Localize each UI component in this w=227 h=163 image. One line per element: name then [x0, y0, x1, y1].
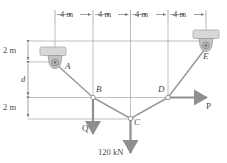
joint-label-A: A [65, 62, 71, 71]
dim-label-top-1: 4 m [98, 10, 111, 19]
dim-label-top-3: 4 m [173, 10, 186, 19]
figure-canvas: 4 m 4 m 4 m 4 m 2 m d 2 m A B C D E Q P … [0, 0, 227, 163]
pulley-axle-A [54, 61, 56, 63]
joint-pin-D [166, 95, 170, 99]
member-A-B [56, 64, 94, 98]
dim-label-top-0: 4 m [60, 10, 73, 19]
member-B-C [93, 98, 131, 119]
construction-verticals [55, 22, 206, 119]
dim-label-left-2: 2 m [3, 103, 16, 112]
dim-label-top-2: 4 m [135, 10, 148, 19]
joint-label-B: B [96, 85, 102, 94]
joint-label-C: C [134, 118, 140, 127]
support-A [40, 47, 66, 69]
member-D-E [168, 49, 205, 98]
dim-label-left-0: 2 m [3, 46, 16, 55]
force-label-120kN: 120 kN [98, 148, 123, 157]
force-label-P: P [206, 102, 211, 111]
member-C-D [131, 98, 169, 119]
force-label-Q: Q [82, 124, 89, 133]
support-block-A [40, 47, 66, 56]
joint-label-D: D [158, 85, 165, 94]
dim-label-left-d: d [21, 75, 25, 84]
pulley-axle-E [205, 44, 207, 46]
support-block-E [193, 30, 219, 39]
joint-label-E: E [203, 52, 209, 61]
statics-diagram-svg [0, 0, 227, 163]
force-arrows [93, 98, 207, 154]
